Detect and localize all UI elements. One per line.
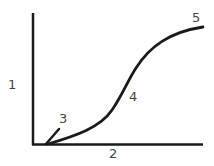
plateau-label: 5 [192, 11, 200, 24]
s-curve-diagram: 1 2 3 4 5 [0, 0, 214, 166]
x-axis-label: 2 [109, 147, 117, 160]
s-curve-line [48, 27, 203, 144]
initial-segment-label: 3 [59, 112, 67, 125]
diagram-canvas [0, 0, 214, 166]
inflection-label: 4 [129, 90, 137, 103]
y-axis-label: 1 [8, 78, 16, 91]
